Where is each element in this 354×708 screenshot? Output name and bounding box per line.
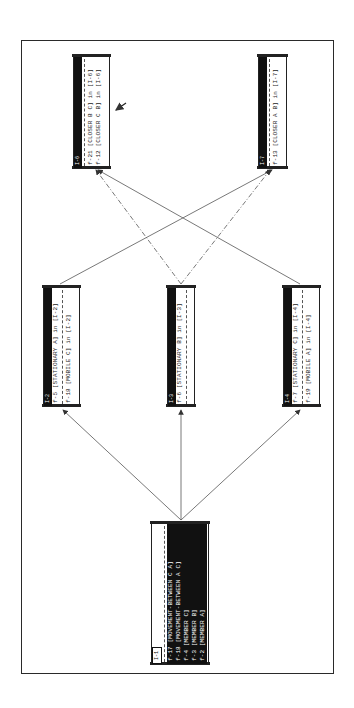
- node-id: I-3: [168, 391, 176, 406]
- node-i2: I-2 f-5 [STATIONARY A] in [I-2] f-18 [MO…: [43, 287, 80, 405]
- node-i1: I-1 f-17 [MOVEMENT-BETWEEN C A] f-18 [MO…: [151, 523, 209, 663]
- node-id: I-6: [74, 153, 82, 168]
- fact: f-4 [MEMBER C]: [183, 524, 191, 664]
- edge-i3-i6: [96, 170, 181, 284]
- node-i6: I-6 f-21 [CLOSER B C] in [I-6] f-12 [CLO…: [73, 56, 110, 167]
- edge-i2-i7: [60, 170, 272, 284]
- fact: f-3 [MEMBER B]: [191, 524, 199, 664]
- fact: f-17 [MOVEMENT-BETWEEN C A]: [167, 524, 175, 664]
- fact: f-13 [CLOSER A B] in [I-7]: [272, 57, 280, 168]
- node-id: I-7: [259, 153, 267, 168]
- edge-i1-i2: [63, 410, 181, 520]
- edge-i3-i7: [181, 170, 270, 284]
- fact: f-18 [MOVEMENT-BETWEEN A C]: [175, 524, 183, 664]
- edge-i4-i6: [98, 170, 300, 284]
- node-id: I-2: [44, 391, 52, 406]
- annotation-arrow-icon: [116, 103, 126, 110]
- node-id: I-4: [284, 391, 292, 406]
- fact: f-19 [MOBILE A] in [I-4]: [305, 288, 313, 406]
- fact: f-7 [STATIONARY C] in [I-4]: [292, 288, 300, 406]
- fact: f-5 [STATIONARY A] in [I-2]: [52, 288, 60, 406]
- node-i3: I-3 f-6 [STATIONARY B] in [I-3]: [167, 287, 195, 405]
- node-id: I-1: [152, 647, 162, 664]
- fact: f-18 [MOBILE C] in [I-2]: [65, 288, 73, 406]
- node-i7: I-7 f-13 [CLOSER A B] in [I-7]: [258, 56, 287, 167]
- fact: f-6 [STATIONARY B] in [I-3]: [176, 288, 184, 406]
- fact: f-2 [MEMBER A]: [199, 524, 207, 664]
- fact: f-21 [CLOSER B C] in [I-6]: [87, 57, 95, 168]
- node-i4: I-4 f-7 [STATIONARY C] in [I-4] f-19 [MO…: [283, 287, 320, 405]
- edge-i1-i4: [181, 410, 300, 520]
- fact: f-12 [CLOSER C B] in [I-6]: [95, 57, 103, 168]
